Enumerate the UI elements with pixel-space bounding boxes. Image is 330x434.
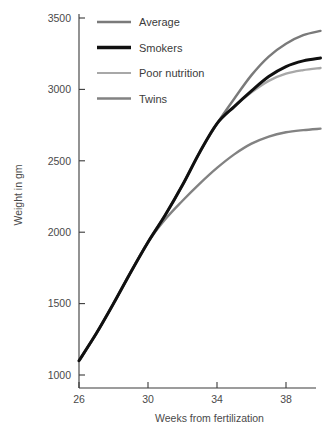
- y-tick-label: 2500: [48, 155, 72, 167]
- x-tick-label: 34: [211, 393, 223, 405]
- chart-container: 100015002000250030003500 26303438 Averag…: [0, 0, 330, 434]
- series-line-smokers: [79, 58, 321, 361]
- series-line-poor-nutrition: [79, 68, 321, 361]
- y-tick-label: 3000: [48, 83, 72, 95]
- x-axis-title: Weeks from fertilization: [155, 412, 264, 424]
- legend-label: Smokers: [139, 42, 183, 54]
- y-axis-title: Weight in gm: [12, 164, 24, 225]
- series-lines: [79, 31, 321, 361]
- legend-label: Poor nutrition: [139, 67, 204, 79]
- x-axis-ticks: 26303438: [73, 382, 292, 405]
- series-line-twins: [79, 129, 321, 361]
- y-tick-label: 1500: [48, 297, 72, 309]
- line-chart: 100015002000250030003500 26303438 Averag…: [0, 0, 330, 434]
- y-tick-label: 1000: [48, 369, 72, 381]
- legend-label: Average: [139, 16, 180, 28]
- legend-label: Twins: [139, 93, 168, 105]
- x-tick-label: 30: [142, 393, 154, 405]
- series-line-average: [79, 31, 321, 361]
- x-tick-label: 26: [73, 393, 85, 405]
- y-tick-label: 2000: [48, 226, 72, 238]
- chart-legend: AverageSmokersPoor nutritionTwins: [97, 16, 204, 105]
- y-tick-label: 3500: [48, 12, 72, 24]
- x-tick-label: 38: [280, 393, 292, 405]
